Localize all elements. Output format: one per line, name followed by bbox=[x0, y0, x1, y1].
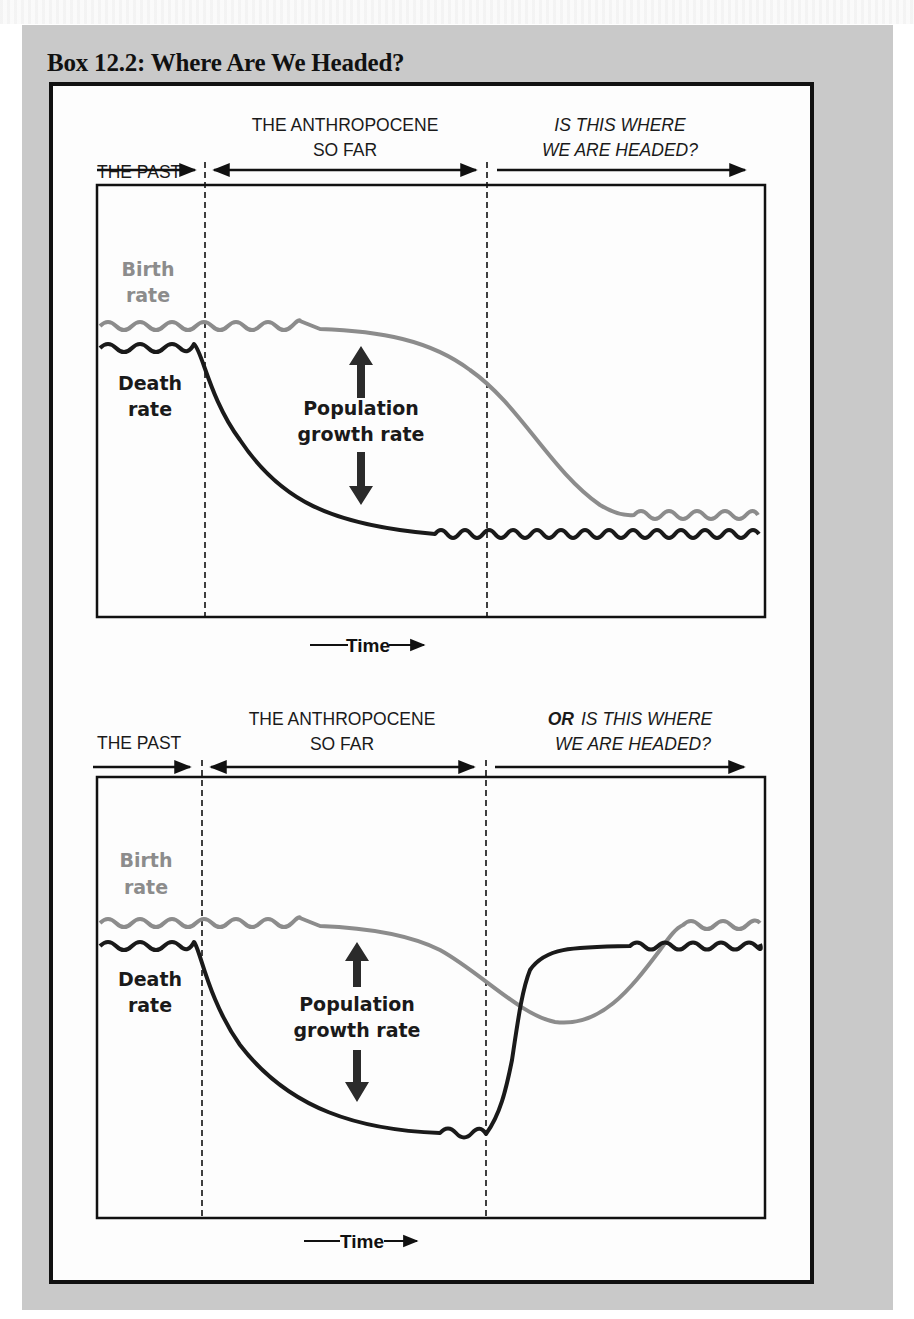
death-rate-curve bbox=[100, 344, 759, 538]
label-anthropocene-line1: THE ANTHROPOCENE bbox=[249, 709, 436, 729]
label-future-line2: WE ARE HEADED? bbox=[555, 734, 711, 754]
label-birth-rate-line1: Birth bbox=[120, 849, 173, 871]
diagram-canvas: THE PAST THE ANTHROPOCENE SO FAR IS THIS… bbox=[0, 0, 914, 1319]
time-axis: Time bbox=[304, 1231, 417, 1252]
label-birth-rate-line1: Birth bbox=[122, 258, 175, 280]
label-future-line1: IS THIS WHERE bbox=[554, 115, 686, 135]
label-anthropocene-line2: SO FAR bbox=[310, 734, 374, 754]
label-death-rate-line2: rate bbox=[128, 994, 172, 1016]
label-time: Time bbox=[346, 635, 390, 656]
chart-frame bbox=[97, 777, 765, 1218]
label-time: Time bbox=[340, 1231, 384, 1252]
label-future-line2: WE ARE HEADED? bbox=[542, 140, 698, 160]
label-anthropocene-line2: SO FAR bbox=[313, 140, 377, 160]
diagram-scenario-2: THE PAST THE ANTHROPOCENE SO FAR ORIS TH… bbox=[93, 709, 765, 1252]
label-the-past: THE PAST bbox=[97, 733, 182, 753]
death-rate-curve bbox=[100, 942, 761, 1138]
chart-frame bbox=[97, 185, 765, 617]
label-growth-rate-line2: growth rate bbox=[294, 1019, 421, 1041]
label-future-line1: ORIS THIS WHERE bbox=[548, 709, 713, 729]
label-growth-rate-line2: growth rate bbox=[298, 423, 425, 445]
label-birth-rate-line2: rate bbox=[124, 876, 168, 898]
label-future-prefix: OR bbox=[548, 709, 575, 729]
time-axis: Time bbox=[310, 635, 424, 656]
diagram-scenario-1: THE PAST THE ANTHROPOCENE SO FAR IS THIS… bbox=[97, 115, 765, 656]
label-growth-rate-line1: Population bbox=[299, 993, 415, 1015]
label-death-rate-line2: rate bbox=[128, 398, 172, 420]
label-the-past: THE PAST bbox=[97, 162, 182, 182]
label-growth-rate-line1: Population bbox=[303, 397, 419, 419]
label-birth-rate-line2: rate bbox=[126, 284, 170, 306]
birth-rate-curve bbox=[100, 917, 760, 1022]
label-future-line1-text: IS THIS WHERE bbox=[581, 709, 713, 729]
label-death-rate-line1: Death bbox=[118, 968, 182, 990]
label-anthropocene-line1: THE ANTHROPOCENE bbox=[252, 115, 439, 135]
label-death-rate-line1: Death bbox=[118, 372, 182, 394]
